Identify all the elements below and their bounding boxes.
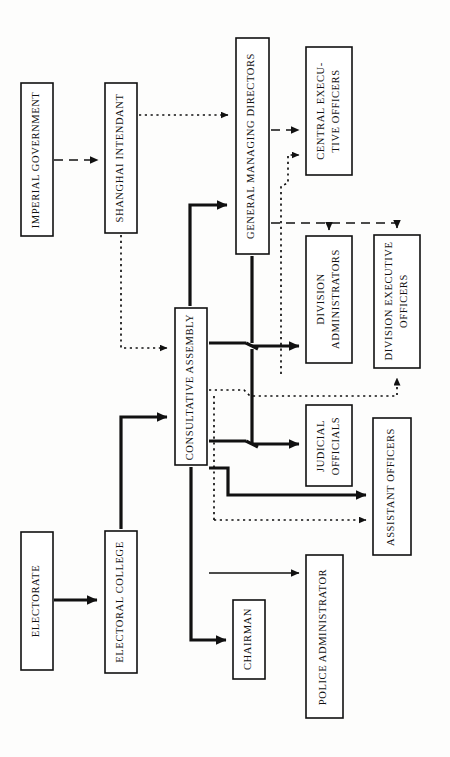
- edge-electoral-college-to-consultative: [121, 417, 167, 529]
- node-label-judicial-officials-line1: JUDICIAL: [315, 420, 326, 472]
- nodes-layer: IMPERIAL GOVERNMENT SHANGHAI INTENDANT G…: [21, 38, 420, 718]
- organization-chart: IMPERIAL GOVERNMENT SHANGHAI INTENDANT G…: [0, 0, 450, 757]
- node-label-electorate: ELECTORATE: [30, 565, 41, 637]
- node-label-central-executive-officers-line2: TIVE OFFICERS: [330, 69, 341, 152]
- node-division-administrators[interactable]: DIVISION ADMINISTRATORS: [306, 236, 352, 363]
- node-label-general-managing-directors: GENERAL MANAGING DIRECTORS: [245, 53, 256, 239]
- node-label-police-administrator: POLICE ADMINISTRATOR: [317, 569, 328, 705]
- node-label-imperial-government: IMPERIAL GOVERNMENT: [30, 92, 41, 229]
- node-label-judicial-officials-line2: OFFICIALS: [330, 417, 341, 476]
- node-police-administrator[interactable]: POLICE ADMINISTRATOR: [306, 555, 343, 718]
- node-label-division-executive-officers-line2: OFFICERS: [398, 274, 409, 328]
- edge-consultative-to-general-managing: [190, 205, 227, 306]
- node-label-electoral-college: ELECTORAL COLLEGE: [114, 541, 125, 662]
- node-label-chairman: CHAIRMAN: [242, 608, 253, 670]
- node-assistant-officers[interactable]: ASSISTANT OFFICERS: [373, 418, 411, 555]
- node-imperial-government[interactable]: IMPERIAL GOVERNMENT: [21, 83, 53, 236]
- node-label-assistant-officers: ASSISTANT OFFICERS: [385, 428, 396, 546]
- edge-division-admins-to-central-exec: [281, 155, 299, 374]
- node-judicial-officials[interactable]: JUDICIAL OFFICIALS: [306, 405, 352, 486]
- node-label-division-administrators-line1: DIVISION: [315, 273, 326, 324]
- edge-general-managing-to-division-branch: [271, 223, 397, 230]
- node-electoral-college[interactable]: ELECTORAL COLLEGE: [105, 531, 137, 673]
- node-chairman[interactable]: CHAIRMAN: [233, 600, 265, 679]
- edge-shanghai-to-consultative: [121, 235, 167, 348]
- node-shanghai-intendant[interactable]: SHANGHAI INTENDANT: [105, 83, 137, 233]
- diagram-canvas: IMPERIAL GOVERNMENT SHANGHAI INTENDANT G…: [0, 0, 450, 757]
- node-electorate[interactable]: ELECTORATE: [21, 532, 53, 670]
- node-central-executive-officers[interactable]: CENTRAL EXECU- TIVE OFFICERS: [306, 47, 352, 175]
- node-division-executive-officers[interactable]: DIVISION EXECUTIVE OFFICERS: [374, 235, 420, 368]
- edge-consultative-to-judicial: [209, 349, 299, 447]
- node-label-central-executive-officers-line1: CENTRAL EXECU-: [315, 62, 326, 160]
- node-label-consultative-assembly: CONSULTATIVE ASSEMBLY: [184, 314, 195, 461]
- node-label-shanghai-intendant: SHANGHAI INTENDANT: [114, 94, 125, 223]
- edge-assembly-to-division-exec-dotted: [209, 378, 397, 396]
- node-label-division-administrators-line2: ADMINISTRATORS: [330, 249, 341, 349]
- node-consultative-assembly[interactable]: CONSULTATIVE ASSEMBLY: [175, 308, 207, 465]
- node-label-division-executive-officers-line1: DIVISION EXECUTIVE: [383, 242, 394, 361]
- edge-consultative-to-division-admins: [209, 343, 299, 349]
- node-general-managing-directors[interactable]: GENERAL MANAGING DIRECTORS: [236, 38, 269, 254]
- edge-consultative-to-chairman: [191, 467, 226, 640]
